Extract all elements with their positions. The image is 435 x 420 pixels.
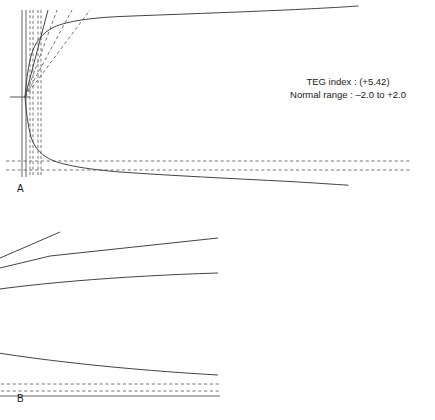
- alpha-angle-measured-line: [25, 10, 48, 97]
- panel-a-normal-range-text: Normal range : –2.0 to +2.0: [268, 88, 428, 101]
- panel-a-teg-index-text: TEG index : (+5.42): [268, 75, 428, 88]
- panel-a-annotation: TEG index : (+5.42) Normal range : –2.0 …: [268, 75, 428, 101]
- panel-a-plot: [0, 0, 435, 210]
- alpha-angle-normal-outer-line: [25, 10, 90, 97]
- panel-a-label: A: [17, 183, 24, 194]
- steep-diagonal-trace: [0, 232, 60, 318]
- panel-b-plot: [0, 210, 435, 420]
- lower-envelope-trace: [0, 318, 218, 375]
- panel-b: B TEG index : –15.84 Normal range : –2.0…: [0, 210, 435, 420]
- teg-figure: A TEG index : (+5.42) Normal range : –2.…: [0, 0, 435, 420]
- upper-envelope-inner-trace: [0, 273, 218, 318]
- panel-b-label: B: [17, 393, 24, 404]
- lower-envelope-trace: [25, 97, 348, 185]
- panel-a: A TEG index : (+5.42) Normal range : –2.…: [0, 0, 435, 210]
